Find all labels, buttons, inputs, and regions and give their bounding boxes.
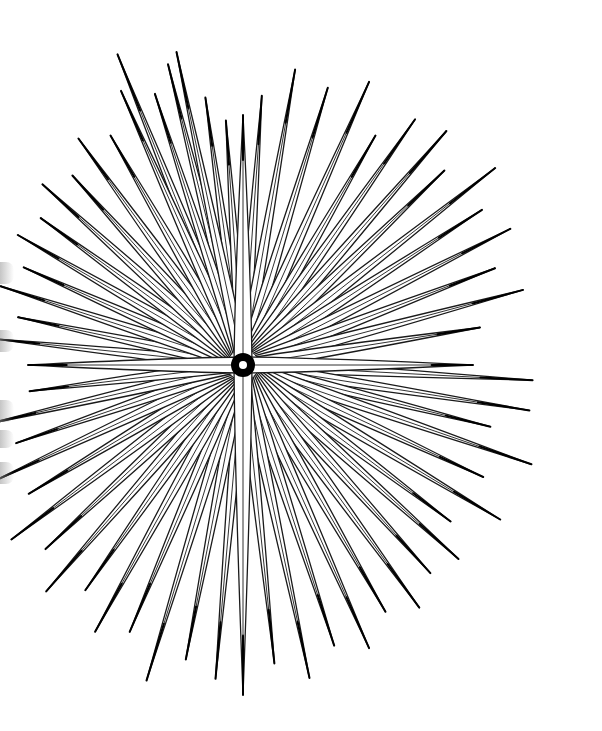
hub-hole <box>239 361 247 369</box>
edge-shadow <box>0 400 14 422</box>
edge-shadow <box>0 430 14 448</box>
center-hub <box>231 353 255 377</box>
edge-shadow <box>0 262 14 284</box>
sea-urchin-drawing <box>0 0 602 731</box>
edge-shadow <box>0 462 14 484</box>
edge-shadow <box>0 330 14 352</box>
